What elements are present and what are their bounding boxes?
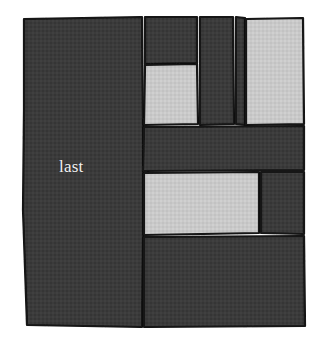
tile-lower-light [144, 172, 259, 235]
tile-middle-band-dark [143, 126, 304, 171]
tile-bottom-dark [144, 236, 305, 327]
tile-left-large [23, 17, 143, 327]
tiled-block-diagram [0, 0, 320, 346]
figure-canvas: last [0, 0, 320, 346]
tile-top-inner-dark [145, 17, 197, 64]
tile-lower-right-dark [261, 172, 304, 234]
tile-top-right-gap-dark [236, 17, 245, 125]
tiles-group [23, 17, 305, 327]
tile-top-inner-light [144, 64, 198, 125]
tile-top-middle-dark [200, 17, 234, 125]
tile-top-right-light [246, 18, 304, 125]
